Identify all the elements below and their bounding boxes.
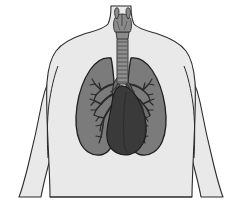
thorax-anatomy-illustration	[0, 0, 246, 212]
anatomy-figure	[0, 0, 246, 212]
trachea	[117, 38, 128, 84]
cricoid-cartilage	[116, 32, 129, 39]
